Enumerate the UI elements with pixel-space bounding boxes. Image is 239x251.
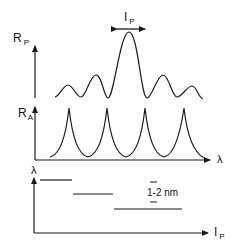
rp-curve (55, 32, 203, 99)
middle-panel: RA λ (18, 106, 223, 165)
ip-x-axis-label: IP (214, 225, 225, 241)
step-size-annotation: 1-2 nm (147, 187, 178, 198)
lambda-axis-label: λ (217, 153, 223, 165)
diagram-canvas: RP IP RA λ λ IP 1-2 nm (0, 0, 239, 251)
top-panel: RP IP (13, 10, 203, 99)
rp-axis-label: RP (13, 31, 29, 47)
ip-width-label: IP (124, 10, 135, 26)
ra-curve (50, 108, 204, 158)
bottom-panel: λ IP 1-2 nm (31, 164, 225, 241)
ra-axis-label: RA (18, 106, 34, 122)
lambda-y-axis-label: λ (31, 164, 37, 176)
